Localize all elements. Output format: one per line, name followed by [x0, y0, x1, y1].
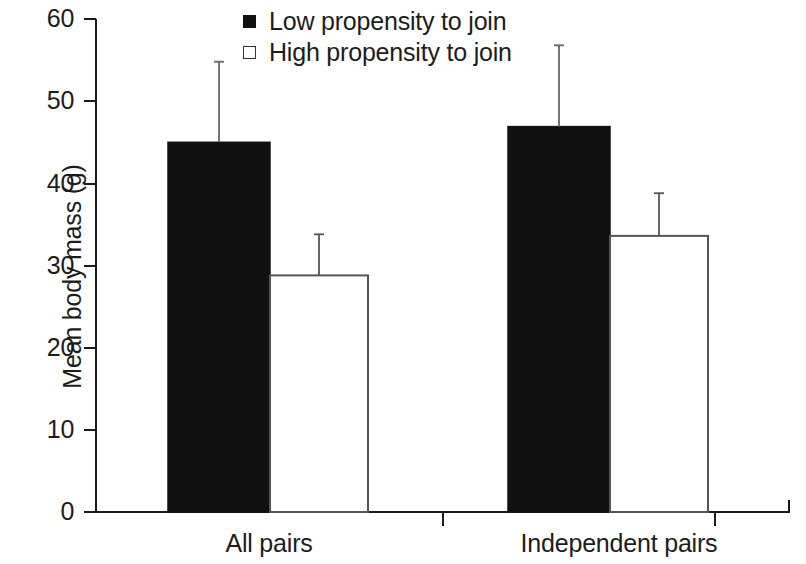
legend-item-high-propensity: High propensity to join [243, 37, 512, 68]
legend-label-low-propensity: Low propensity to join [269, 9, 506, 34]
chart-canvas [0, 0, 806, 564]
bar-low-all-pairs [168, 142, 270, 512]
y-tick-label-0: 0 [12, 499, 74, 524]
y-tick-label-50: 50 [12, 88, 74, 113]
legend-item-low-propensity: Low propensity to join [243, 6, 512, 37]
open-square-icon [243, 46, 256, 59]
legend: Low propensity to join High propensity t… [243, 6, 512, 68]
x-category-label-independent-pairs: Independent pairs [499, 531, 739, 556]
x-category-label-all-pairs: All pairs [178, 531, 360, 556]
bar-high-independent-pairs [610, 236, 708, 512]
y-tick-label-60: 60 [12, 6, 74, 31]
y-axis-title: Mean body mass (g) [58, 117, 87, 437]
bar-chart: 60 50 40 30 20 10 0 Mean body mass (g) A… [0, 0, 806, 564]
bar-high-all-pairs [270, 275, 368, 512]
filled-square-icon [243, 15, 256, 28]
legend-label-high-propensity: High propensity to join [269, 40, 512, 65]
bar-low-independent-pairs [508, 127, 610, 512]
